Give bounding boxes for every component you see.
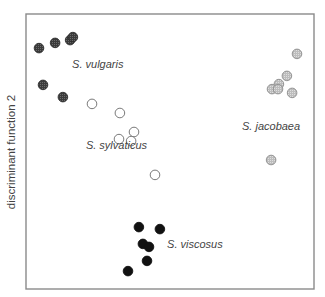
data-point: [150, 170, 160, 180]
data-point: [134, 222, 144, 232]
group-label: S. vulgaris: [72, 58, 124, 70]
data-point: [142, 256, 152, 266]
data-point: [123, 266, 133, 276]
data-point: [87, 99, 97, 109]
data-point: [129, 127, 139, 137]
data-point: [115, 108, 125, 118]
group-label: S. viscosus: [167, 238, 223, 250]
data-point: [58, 92, 68, 102]
data-point: [34, 43, 44, 53]
data-point: [292, 49, 302, 59]
scatter-chart: discriminant function 2 S. vulgarisS. ja…: [0, 0, 325, 297]
data-point: [266, 155, 276, 165]
data-point: [282, 71, 292, 81]
data-point: [155, 224, 165, 234]
y-axis-label: discriminant function 2: [5, 95, 17, 209]
group-labels-layer: S. vulgarisS. jacobaeaS. sylvaticusS. vi…: [72, 58, 300, 250]
group-label: S. jacobaea: [242, 120, 300, 132]
group-label: S. sylvaticus: [86, 139, 148, 151]
data-point: [38, 80, 48, 90]
series-s-jacobaea: [266, 49, 302, 165]
data-point: [68, 32, 78, 42]
series-s-viscosus: [123, 222, 165, 276]
data-point: [144, 242, 154, 252]
data-point: [50, 38, 60, 48]
data-point: [287, 88, 297, 98]
data-point: [273, 84, 283, 94]
